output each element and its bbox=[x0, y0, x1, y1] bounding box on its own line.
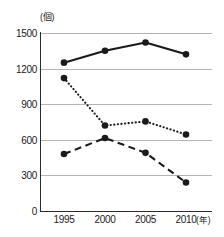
x-axis-unit-label: (年) bbox=[196, 213, 211, 225]
data-point-marker bbox=[183, 51, 190, 58]
x-tick-label: 2005 bbox=[135, 214, 156, 225]
data-point-marker bbox=[102, 122, 109, 129]
data-point-marker bbox=[102, 48, 109, 55]
data-point-marker bbox=[142, 118, 149, 125]
data-series-layer bbox=[0, 0, 224, 237]
data-point-marker bbox=[183, 179, 190, 186]
line-chart: (個) 1500 1200 900 600 300 0 1995 2000 20… bbox=[0, 0, 224, 237]
data-point-marker bbox=[61, 75, 68, 82]
x-tick-label: 1995 bbox=[53, 214, 74, 225]
data-point-marker bbox=[142, 39, 149, 46]
x-tick-label: 2000 bbox=[94, 214, 115, 225]
series-dashed bbox=[61, 135, 190, 186]
data-point-marker bbox=[61, 59, 68, 66]
x-tick-label: 2010 bbox=[175, 214, 196, 225]
data-point-marker bbox=[102, 135, 109, 142]
series-solid bbox=[61, 39, 190, 66]
data-point-marker bbox=[142, 150, 149, 157]
data-point-marker bbox=[61, 151, 68, 158]
data-point-marker bbox=[183, 131, 190, 138]
series-dotted bbox=[61, 75, 190, 138]
